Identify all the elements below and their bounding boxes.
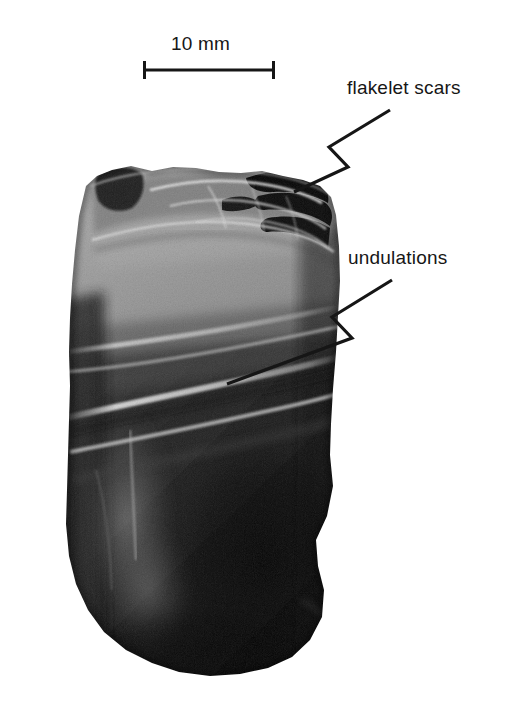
- figure-svg: [0, 0, 527, 724]
- figure-canvas: 10 mm flakelet scars undulations: [0, 0, 527, 724]
- annotation-label-undulations: undulations: [348, 248, 447, 267]
- annotation-label-flakelet-scars: flakelet scars: [347, 78, 461, 97]
- scale-bar-label: 10 mm: [171, 34, 230, 53]
- specimen-photograph: [55, 155, 365, 705]
